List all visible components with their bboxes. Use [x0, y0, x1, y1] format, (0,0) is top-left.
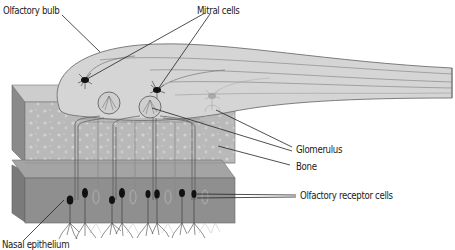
label-glomerulus: Glomerulus	[296, 143, 342, 155]
label-olfactory-receptor-cells: Olfactory receptor cells	[300, 189, 393, 201]
cilia	[59, 223, 205, 239]
glomerulus-1	[98, 92, 120, 114]
label-bone: Bone	[296, 160, 317, 172]
leader-olfactory-bulb	[62, 15, 100, 52]
label-nasal-epithelium: Nasal epithelium	[2, 238, 69, 250]
label-olfactory-bulb: Olfactory bulb	[3, 4, 59, 16]
label-mitral-cells: Mitral cells	[197, 4, 240, 16]
glomerulus-2	[139, 96, 161, 118]
